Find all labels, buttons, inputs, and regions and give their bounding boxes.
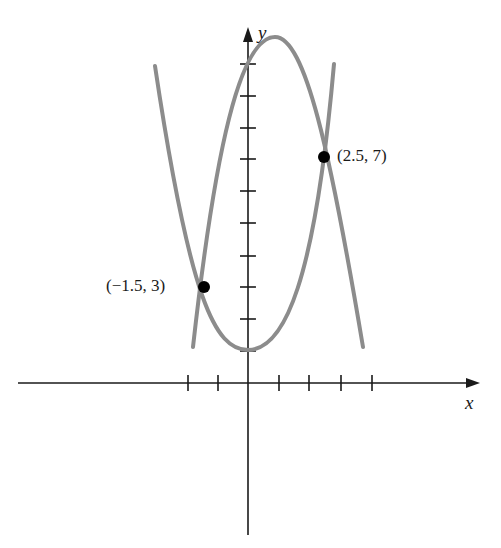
x-axis-arrow-icon — [466, 378, 480, 388]
y-axis-arrow-icon — [243, 27, 253, 42]
point-label-left: (−1.5, 3) — [106, 276, 165, 296]
y-axis-label: y — [258, 22, 266, 44]
x-axis-label: x — [465, 392, 473, 414]
downward-parabola-curve — [193, 37, 363, 347]
x-axis — [18, 375, 480, 391]
intersection-point-left — [198, 281, 210, 293]
intersection-point-right — [318, 151, 330, 163]
upward-parabola-curve — [155, 64, 334, 350]
y-axis — [240, 27, 256, 535]
point-label-right: (2.5, 7) — [337, 146, 387, 166]
graph-figure: y x (−1.5, 3) (2.5, 7) — [0, 0, 501, 548]
